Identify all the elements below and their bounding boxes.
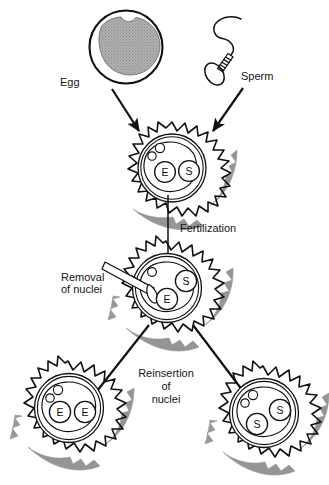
egg-cell-icon bbox=[90, 11, 163, 84]
nuclear-transfer-diagram: Egg Sperm bbox=[0, 0, 329, 485]
sperm-label: Sperm bbox=[241, 70, 273, 82]
egg-label: Egg bbox=[60, 76, 80, 88]
nucleus-label: E bbox=[56, 406, 63, 418]
nucleus-egg: E bbox=[156, 288, 177, 309]
diagram-canvas: Egg Sperm bbox=[0, 0, 329, 485]
nucleus-sperm-2: S bbox=[246, 413, 267, 434]
nucleus-egg: E bbox=[155, 162, 176, 183]
nucleus-label: E bbox=[163, 293, 170, 305]
nucleus-label: S bbox=[185, 165, 192, 177]
nucleus-sperm: S bbox=[179, 161, 200, 182]
nucleus-label: S bbox=[182, 275, 189, 287]
reinsertion-label-line2: of bbox=[161, 380, 171, 392]
nucleus-sperm: S bbox=[175, 270, 196, 291]
nucleus-label: E bbox=[81, 406, 88, 418]
nucleus-sperm-1: S bbox=[269, 399, 290, 420]
reinsertion-label-line1: Reinsertion bbox=[138, 367, 194, 379]
removal-label-line2: of nuclei bbox=[61, 283, 102, 295]
nucleus-label: S bbox=[276, 404, 283, 416]
removal-label-line1: Removal bbox=[61, 271, 104, 283]
nucleus-label: E bbox=[161, 166, 168, 178]
nucleus-egg-2: E bbox=[74, 401, 95, 422]
nucleus-label: S bbox=[253, 418, 260, 430]
fertilization-label: Fertilization bbox=[180, 222, 236, 234]
reinsertion-label-line3: nuclei bbox=[152, 393, 181, 405]
nucleus-egg-1: E bbox=[49, 401, 70, 422]
